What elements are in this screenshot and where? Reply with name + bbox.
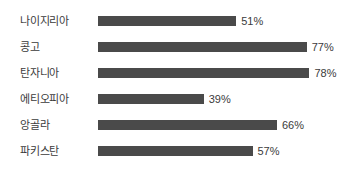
bar-group: 39% [98,94,231,104]
chart-row: 앙골라 66% [0,112,351,138]
bar [98,42,307,52]
chart-row: 에티오피아 39% [0,86,351,112]
bar-chart: 나이지리아 51% 콩고 77% 탄자니아 78% 에티오피아 39% 앙골라 … [0,0,351,177]
chart-row: 파키스탄 57% [0,138,351,164]
bar [98,16,236,26]
bar [98,68,309,78]
category-label: 파키스탄 [20,145,59,158]
value-label: 51% [241,15,263,28]
category-label: 나이지리아 [20,15,69,28]
value-label: 77% [312,41,334,54]
category-label: 에티오피아 [20,93,69,106]
value-label: 78% [314,67,336,80]
value-label: 57% [258,145,280,158]
bar-group: 77% [98,42,334,52]
value-label: 39% [209,93,231,106]
value-label: 66% [282,119,304,132]
chart-row: 나이지리아 51% [0,8,351,34]
chart-row: 탄자니아 78% [0,60,351,86]
bar [98,120,277,130]
category-label: 콩고 [20,41,40,54]
bar-group: 51% [98,16,263,26]
category-label: 앙골라 [20,119,49,132]
bar-group: 57% [98,146,280,156]
bar [98,94,204,104]
chart-row: 콩고 77% [0,34,351,60]
category-label: 탄자니아 [20,67,59,80]
bar [98,146,253,156]
bar-group: 78% [98,68,336,78]
bar-group: 66% [98,120,304,130]
